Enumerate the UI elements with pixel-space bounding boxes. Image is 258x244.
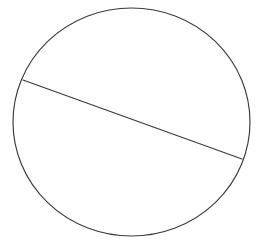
figure-canvas bbox=[0, 0, 258, 244]
background-rect bbox=[0, 0, 258, 244]
circle-chord-diagram bbox=[0, 0, 258, 244]
